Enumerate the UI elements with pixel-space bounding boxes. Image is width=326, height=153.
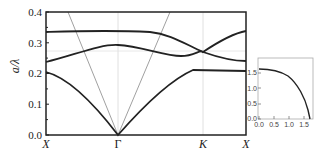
inset-xtick-3: 1.5 <box>299 121 309 128</box>
ytick-0: 0.0 <box>28 129 42 141</box>
xtick-x-right: X <box>241 137 250 151</box>
xtick-gamma: Γ <box>115 137 122 151</box>
xtick-x-left: X <box>41 137 50 151</box>
inset-ytick-3: 1.5 <box>247 69 257 76</box>
inset-xtick-0: 0.0 <box>254 121 264 128</box>
band-1 <box>46 70 246 135</box>
ytick-2: 0.2 <box>28 67 42 79</box>
band-2 <box>46 31 246 62</box>
inset-ytick-2: 1.0 <box>247 85 257 92</box>
ytick-1: 0.1 <box>28 98 42 110</box>
inset-frame <box>258 58 313 119</box>
y-axis-label: a/λ <box>8 59 22 74</box>
ytick-4: 0.4 <box>28 6 42 18</box>
inset-ytick-1: 0.5 <box>247 100 257 107</box>
band-structure-chart: 0.0 0.1 0.2 0.3 0.4 a/λ X Γ K X 0.0 0.5 … <box>0 0 326 153</box>
band-3 <box>46 31 246 61</box>
inset-xtick-2: 1.0 <box>284 121 294 128</box>
inset-chart: 0.0 0.5 1.0 1.5 0.0 0.5 1.0 1.5 <box>247 58 313 128</box>
inset-xtick-1: 0.5 <box>269 121 279 128</box>
ytick-3: 0.3 <box>28 37 42 49</box>
xtick-k: K <box>198 137 208 151</box>
